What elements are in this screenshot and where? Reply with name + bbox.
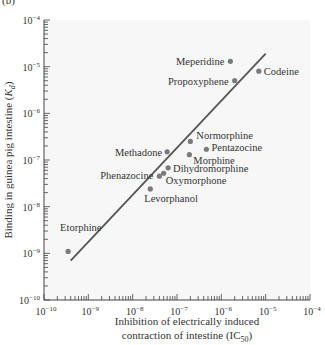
y-tick-label: 10−6 (23, 107, 41, 119)
data-point-dihydromorphine (166, 165, 171, 170)
point-label-codeine: Codeine (264, 66, 299, 77)
y-tick-label: 10−5 (23, 61, 41, 73)
data-point-codeine (256, 69, 261, 74)
point-label-methadone: Methadone (115, 147, 163, 158)
x-tick-label: 10−4 (303, 305, 321, 317)
y-tick-label: 10−9 (23, 247, 41, 259)
y-tick-label: 10−4 (23, 14, 41, 26)
data-point-propoxyphene (232, 78, 237, 83)
point-label-etorphine: Etorphine (60, 222, 102, 233)
data-point-morphine (187, 152, 192, 157)
data-point-methadone (165, 149, 170, 154)
data-point-etorphine (66, 249, 71, 254)
point-label-meperidine: Meperidine (176, 56, 225, 67)
point-label-normorphine: Normorphine (196, 130, 253, 141)
x-axis-title: Inhibition of electrically induced (115, 315, 260, 327)
point-label-oxymorphone: Oxymorphone (166, 175, 227, 186)
x-tick-label: 10−9 (82, 305, 100, 317)
y-tick-label: 10−7 (23, 154, 41, 166)
x-tick-label: 10−10 (36, 305, 57, 317)
point-label-pentazocine: Pentazocine (211, 142, 262, 153)
data-point-pentazocine (204, 147, 209, 152)
y-tick-label: 10−8 (23, 201, 41, 213)
data-point-phenazocine (157, 174, 162, 179)
point-label-levorphanol: Levorphanol (144, 193, 198, 204)
y-tick-label: 10−10 (19, 294, 40, 306)
data-point-meperidine (228, 59, 233, 64)
x-tick-label: 10−5 (259, 305, 277, 317)
point-label-phenazocine: Phenazocine (100, 170, 153, 181)
point-label-dihydromorphine: Dihydromorphine (173, 163, 249, 174)
point-label-propoxyphene: Propoxyphene (168, 76, 229, 87)
data-point-levorphanol (148, 186, 153, 191)
scatter-chart: 10−1010−1010−910−910−810−810−710−710−610… (0, 0, 325, 345)
x-axis-title-line2: contraction of intestine (IC50) (122, 329, 253, 344)
y-axis-title: Binding in guinea pig intestine (Kd) (2, 81, 17, 238)
data-point-normorphine (188, 139, 193, 144)
